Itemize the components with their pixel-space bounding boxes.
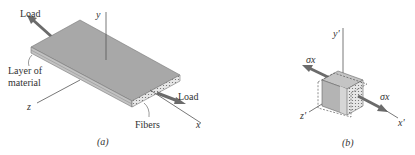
z-prime-axis-line <box>309 104 322 112</box>
caption-a: (a) <box>97 136 109 148</box>
z-axis-line <box>37 80 80 103</box>
load-label-bottom: Load <box>178 91 199 102</box>
x-prime-axis-line <box>385 110 398 118</box>
composite-material-diagram: Load y z Load x Layer of material <box>0 0 415 155</box>
layer-label-line2: material <box>8 77 41 88</box>
fibers-label: Fibers <box>135 119 160 130</box>
z-axis-label: z <box>26 101 31 112</box>
x-prime-axis-label: x' <box>397 117 405 128</box>
x-axis-label: x <box>195 119 201 130</box>
layer-label-line1: Layer of <box>8 65 43 76</box>
z-prime-axis-label: z' <box>299 110 307 121</box>
y-prime-axis-label: y' <box>332 28 340 39</box>
stress-label-left: σx <box>306 54 316 65</box>
caption-b: (b) <box>342 137 354 149</box>
figure-b: y' σx σx x' z' <box>299 28 405 149</box>
stress-label-right: σx <box>380 91 390 102</box>
material-element-cube <box>318 71 367 117</box>
load-label-top: Load <box>20 8 41 19</box>
figure-a: Load y z Load x Layer of material <box>8 8 201 148</box>
y-axis-label: y <box>95 9 101 20</box>
fibers-leader-line <box>144 103 149 117</box>
